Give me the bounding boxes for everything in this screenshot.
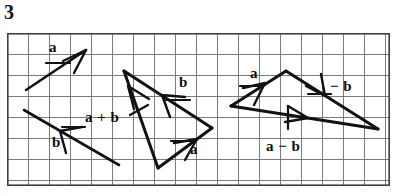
- label-a-plus-b: a + b: [85, 110, 119, 125]
- vector-a-right: [231, 71, 286, 106]
- vector-b-left-arrowhead: [60, 127, 82, 153]
- label-a-middle: a: [190, 142, 198, 157]
- label-a-minus-b: a − b: [266, 139, 300, 154]
- label-a-left: a: [49, 40, 57, 55]
- problem-number: 3: [4, 0, 14, 24]
- label-a-right: a: [250, 66, 258, 81]
- label-b-left: b: [52, 135, 61, 150]
- diagram-vectors-a-and-b: [24, 50, 119, 165]
- diagram-triangle-a-plus-b: [124, 71, 212, 168]
- vector-drawings: [7, 33, 390, 186]
- vector-a-left: [26, 50, 86, 90]
- figure-root: 3: [0, 0, 396, 196]
- label-b-middle: b: [179, 75, 188, 90]
- label-minus-b: − b: [330, 79, 352, 94]
- vector-a-middle: [158, 128, 212, 168]
- grid-paper-panel: a b a + b b a a − b a − b: [7, 33, 390, 186]
